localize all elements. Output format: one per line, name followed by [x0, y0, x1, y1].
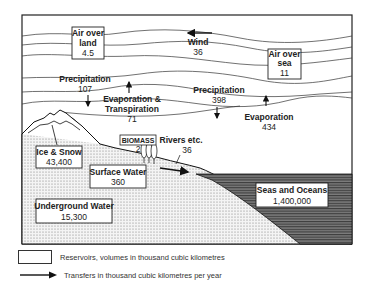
- svg-text:BIOMASS: BIOMASS: [122, 137, 155, 144]
- reservoir-surface-water: Surface Water 360: [90, 165, 148, 188]
- svg-text:Evaporation: Evaporation: [244, 112, 293, 122]
- svg-text:360: 360: [111, 177, 125, 187]
- legend-box-icon: [18, 250, 52, 264]
- svg-text:Ice & Snow: Ice & Snow: [36, 147, 82, 157]
- svg-text:43,400: 43,400: [46, 157, 72, 167]
- svg-text:15,300: 15,300: [61, 212, 87, 222]
- svg-text:Evaporation &: Evaporation &: [103, 94, 161, 104]
- svg-text:398: 398: [212, 95, 226, 105]
- svg-text:71: 71: [127, 114, 137, 124]
- legend-transfers-text: Transfers in thousand cubic kilometres p…: [64, 271, 222, 280]
- reservoir-air-over-sea: Air over sea 11: [268, 49, 301, 79]
- reservoir-air-over-land: Air over land 4.5: [72, 27, 105, 59]
- svg-text:11: 11: [280, 68, 289, 78]
- svg-text:land: land: [79, 38, 96, 48]
- svg-text:Surface Water: Surface Water: [90, 167, 148, 177]
- legend-transfers: Transfers in thousand cubic kilometres p…: [18, 270, 222, 280]
- svg-text:Wind: Wind: [188, 37, 209, 47]
- svg-text:2: 2: [136, 144, 141, 154]
- svg-text:Seas and Oceans: Seas and Oceans: [257, 185, 328, 195]
- svg-text:Underground Water: Underground Water: [34, 201, 114, 211]
- reservoir-seas-oceans: Seas and Oceans 1,400,000: [256, 183, 328, 207]
- svg-text:Transpiration: Transpiration: [105, 104, 159, 114]
- svg-text:Precipitation: Precipitation: [59, 74, 110, 84]
- svg-text:sea: sea: [277, 58, 291, 68]
- svg-text:107: 107: [78, 84, 92, 94]
- arrow-icon: [18, 270, 58, 280]
- legend-reservoirs-text: Reservoirs, volumes in thousand cubic ki…: [60, 253, 225, 262]
- svg-text:1,400,000: 1,400,000: [273, 196, 311, 206]
- reservoir-underground-water: Underground Water 15,300: [34, 199, 114, 223]
- svg-text:36: 36: [182, 145, 192, 155]
- legend-reservoirs: Reservoirs, volumes in thousand cubic ki…: [18, 250, 225, 264]
- reservoir-ice-snow: Ice & Snow 43,400: [36, 146, 82, 168]
- svg-text:Precipitation: Precipitation: [193, 85, 244, 95]
- svg-text:36: 36: [193, 47, 203, 57]
- svg-text:434: 434: [262, 122, 276, 132]
- svg-text:4.5: 4.5: [82, 48, 94, 58]
- svg-text:Air over: Air over: [72, 28, 105, 38]
- svg-text:Rivers etc.: Rivers etc.: [160, 135, 203, 145]
